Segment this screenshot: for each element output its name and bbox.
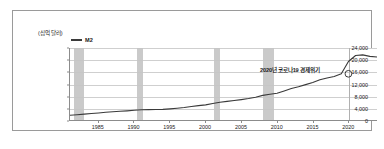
x-tick-mark [205,121,206,123]
y-tick-label: 20,000 [319,57,371,63]
y-tick-label: 4,000 [319,106,371,112]
x-tick-mark [348,121,349,123]
y-tick-mark [67,60,69,61]
y-tick-label: 16,000 [319,69,371,75]
figure-border: (십억 달러) M2 04,0008,00012,00016,00020,000… [12,10,372,131]
x-tick-label: 1990 [127,124,139,130]
x-tick-mark [241,121,242,123]
x-tick-label: 1985 [92,124,104,130]
annotation-covid-2020: 2020년 코로나19 경제위기 [260,66,319,74]
legend-swatch-m2 [71,39,82,41]
y-tick-label: 8,000 [319,94,371,100]
x-tick-label: 2015 [307,124,319,130]
x-tick-label: 2020 [342,124,354,130]
y-tick-label: 24,000 [319,45,371,51]
legend-label-m2: M2 [85,37,93,43]
y-tick-mark [67,84,69,85]
y-tick-mark [67,121,69,122]
x-tick-label: 2005 [235,124,247,130]
x-tick-mark [133,121,134,123]
x-tick-mark [98,121,99,123]
y-tick-mark [67,96,69,97]
y-tick-mark [67,72,69,73]
x-tick-mark [169,121,170,123]
y-tick-mark [67,108,69,109]
x-tick-mark [313,121,314,123]
x-tick-mark [277,121,278,123]
chart-figure: (십억 달러) M2 04,0008,00012,00016,00020,000… [0,0,384,149]
x-tick-label: 2010 [271,124,283,130]
y-tick-mark [67,48,69,49]
chart-legend: M2 [71,37,93,43]
x-tick-label: 1995 [163,124,175,130]
x-tick-label: 2000 [199,124,211,130]
y-tick-label: 12,000 [319,82,371,88]
y-axis-unit-label: (십억 달러) [38,29,63,37]
